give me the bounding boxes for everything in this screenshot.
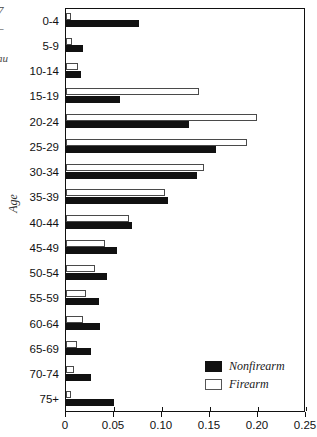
bar-nonfirearm (66, 45, 83, 52)
x-axis-inner-tick (306, 407, 307, 411)
plot-area (65, 8, 305, 412)
bar-firearm (66, 265, 95, 272)
y-axis-tick-label: 40-44 (30, 217, 59, 229)
x-axis-inner-tick (162, 407, 163, 411)
legend-label-nonfirearm: Nonfirearm (229, 359, 285, 374)
bar-nonfirearm (66, 146, 216, 153)
y-axis-tick-label: 70-74 (30, 368, 59, 380)
bar-firearm (66, 341, 77, 348)
x-axis-tick-label: 0 (45, 419, 85, 431)
x-axis-tick (257, 412, 258, 417)
y-axis-tick-label: 55-59 (30, 292, 59, 304)
bar-nonfirearm (66, 399, 114, 406)
bar-nonfirearm (66, 247, 117, 254)
x-axis-inner-tick (258, 407, 259, 411)
bar-firearm (66, 139, 247, 146)
x-axis-inner-tick (114, 407, 115, 411)
y-axis-tick-labels: 0-45-910-1415-1920-2425-2930-3435-3940-4… (0, 8, 62, 412)
bar-firearm (66, 240, 105, 247)
bar-nonfirearm (66, 20, 139, 27)
x-axis-tick-label: 0.05 (93, 419, 133, 431)
y-axis-tick-label: 15-19 (30, 90, 59, 102)
legend-item-nonfirearm: Nonfirearm (205, 358, 285, 374)
x-axis-tick (209, 412, 210, 417)
x-axis-inner-tick (210, 407, 211, 411)
x-axis-tick-label: 0.20 (237, 419, 277, 431)
legend-label-firearm: Firearm (229, 377, 269, 392)
bar-firearm (66, 164, 204, 171)
bar-firearm (66, 366, 74, 373)
bar-nonfirearm (66, 348, 91, 355)
chart-figure: 7 – au Age 0-45-910-1415-1920-2425-2930-… (0, 0, 317, 437)
bar-firearm (66, 290, 86, 297)
bar-nonfirearm (66, 96, 120, 103)
bar-firearm (66, 189, 165, 196)
bar-nonfirearm (66, 121, 189, 128)
y-axis-tick-label: 60-64 (30, 318, 59, 330)
bar-nonfirearm (66, 273, 107, 280)
bar-nonfirearm (66, 323, 100, 330)
y-axis-tick-label: 30-34 (30, 166, 59, 178)
bar-nonfirearm (66, 71, 81, 78)
bar-firearm (66, 391, 71, 398)
bar-nonfirearm (66, 197, 168, 204)
y-axis-tick-label: 50-54 (30, 267, 59, 279)
x-axis-tick-label: 0.15 (189, 419, 229, 431)
x-axis-tick (113, 412, 114, 417)
y-axis-tick-label: 65-69 (30, 343, 59, 355)
bar-firearm (66, 88, 199, 95)
y-axis-tick-label: 35-39 (30, 191, 59, 203)
bar-nonfirearm (66, 298, 99, 305)
bar-firearm (66, 63, 78, 70)
y-axis-tick-label: 75+ (39, 393, 59, 405)
legend-item-firearm: Firearm (205, 376, 285, 392)
bar-nonfirearm (66, 222, 132, 229)
y-axis-tick-label: 0-4 (42, 15, 59, 27)
legend-swatch-nonfirearm (205, 361, 222, 372)
x-axis-tick (305, 412, 306, 417)
bar-firearm (66, 114, 257, 121)
bar-nonfirearm (66, 172, 197, 179)
x-axis-tick-label: 0.25 (285, 419, 317, 431)
bar-firearm (66, 38, 72, 45)
bar-firearm (66, 215, 129, 222)
y-axis-tick-label: 25-29 (30, 141, 59, 153)
x-axis-tick (65, 412, 66, 417)
y-axis-tick-label: 5-9 (42, 40, 59, 52)
bar-firearm (66, 13, 71, 20)
x-axis-tick (161, 412, 162, 417)
bar-nonfirearm (66, 374, 91, 381)
y-axis-tick-label: 45-49 (30, 242, 59, 254)
y-axis-tick-label: 10-14 (30, 65, 59, 77)
x-axis-tick-label: 0.10 (141, 419, 181, 431)
legend-swatch-firearm (205, 379, 222, 390)
y-axis-tick-label: 20-24 (30, 116, 59, 128)
chart-legend: Nonfirearm Firearm (205, 358, 285, 394)
bar-firearm (66, 316, 83, 323)
